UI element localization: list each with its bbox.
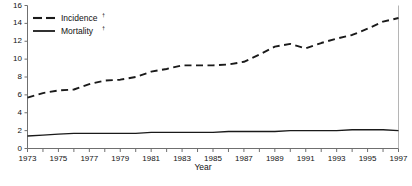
x-axis-tick-label: 1975 xyxy=(42,154,74,163)
legend-label: Incidence xyxy=(61,13,98,23)
chart-legend: Incidence†Mortality† xyxy=(33,12,105,36)
x-axis-tick-label: 1977 xyxy=(73,154,105,163)
y-axis-tick-label: 4 xyxy=(0,108,22,117)
series-line-mortality xyxy=(28,130,399,136)
x-axis-title: Year xyxy=(0,162,406,172)
y-axis-tick-label: 8 xyxy=(0,72,22,81)
x-axis-tick-label: 1983 xyxy=(166,154,198,163)
x-axis-tick-label: 1979 xyxy=(104,154,136,163)
x-axis-tick-label: 1995 xyxy=(352,154,384,163)
x-axis-tick-label: 1973 xyxy=(12,154,44,163)
x-axis-tick-label: 1987 xyxy=(228,154,260,163)
y-axis-tick-label: 14 xyxy=(0,18,22,27)
y-axis-tick-label: 6 xyxy=(0,90,22,99)
x-axis-tick-label: 1989 xyxy=(259,154,291,163)
legend-label: Mortality xyxy=(61,26,94,36)
legend-footnote-marker: † xyxy=(102,12,105,18)
y-axis-tick-label: 10 xyxy=(0,54,22,63)
x-axis-tick-label: 1985 xyxy=(197,154,229,163)
x-axis-tick-label: 1993 xyxy=(321,154,353,163)
y-axis-tick-label: 0 xyxy=(0,144,22,153)
x-axis-tick-label: 1981 xyxy=(135,154,167,163)
y-axis-tick-label: 2 xyxy=(0,126,22,135)
y-axis-tick-label: 12 xyxy=(0,36,22,45)
y-axis-tick-label: 16 xyxy=(0,1,22,10)
x-axis-tick-label: 1997 xyxy=(383,154,412,163)
x-axis-tick-label: 1991 xyxy=(290,154,322,163)
legend-footnote-marker: † xyxy=(102,25,105,31)
cut-off-caption xyxy=(0,179,406,186)
